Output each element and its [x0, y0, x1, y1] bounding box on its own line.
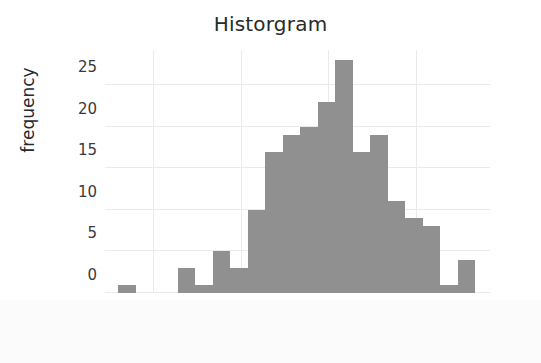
- y-tick-label: 5: [87, 224, 97, 242]
- histogram-bar: [230, 268, 248, 293]
- gridline-vertical: [153, 50, 154, 293]
- histogram-bar: [335, 60, 353, 293]
- y-tick-label: 10: [78, 183, 97, 201]
- x-tick-label: 90: [406, 300, 425, 318]
- x-tick-label: 60: [144, 300, 163, 318]
- histogram-bar: [213, 251, 231, 293]
- histogram-bar: [283, 135, 301, 293]
- histogram-bar: [370, 135, 388, 293]
- histogram-bar: [265, 152, 283, 293]
- histogram-bar: [248, 210, 266, 293]
- histogram-bar: [388, 201, 406, 293]
- histogram-bar: [118, 285, 136, 293]
- gridline-vertical: [241, 50, 242, 293]
- histogram-bar: [195, 285, 213, 293]
- histogram-bar: [353, 152, 371, 293]
- plot-area: 0510152025 60708090: [105, 50, 490, 293]
- y-tick-label: 15: [78, 141, 97, 159]
- y-tick-label: 0: [87, 266, 97, 284]
- gridline-horizontal: [105, 126, 490, 127]
- gridline-horizontal: [105, 84, 490, 85]
- histogram-bar: [318, 102, 336, 293]
- histogram-bar: [405, 218, 423, 293]
- x-axis-label: bin range: [105, 326, 505, 346]
- histogram-bar: [440, 285, 458, 293]
- histogram-bar: [423, 226, 441, 293]
- histogram-figure: Historgram frequency 0510152025 60708090…: [0, 0, 541, 363]
- y-tick-label: 25: [78, 58, 97, 76]
- histogram-bar: [458, 260, 476, 293]
- y-axis-label: frequency: [18, 20, 38, 200]
- x-tick-label: 80: [319, 300, 338, 318]
- y-tick-label: 20: [78, 100, 97, 118]
- x-tick-label: 70: [231, 300, 250, 318]
- histogram-bar: [300, 127, 318, 293]
- chart-title: Historgram: [0, 12, 541, 36]
- histogram-bar: [178, 268, 196, 293]
